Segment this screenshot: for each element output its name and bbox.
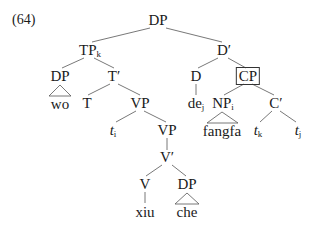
leaf-de-label: de	[188, 95, 202, 111]
trace-k: tk	[254, 123, 263, 142]
node-np-index: i	[231, 102, 234, 112]
node-cp-label: CP	[237, 68, 259, 84]
node-t: T	[82, 96, 91, 111]
node-tp: TPk	[79, 43, 101, 62]
node-cbar: C′	[269, 96, 282, 111]
leaf-xiu: xiu	[135, 205, 154, 220]
trace-i-index: i	[114, 129, 117, 139]
node-vp-upper: VP	[130, 96, 149, 111]
node-dp-left: DP	[50, 69, 69, 84]
node-v: V	[140, 177, 151, 192]
trace-k-index: k	[258, 129, 263, 139]
leaf-de: dej	[188, 96, 205, 115]
node-vbar: V′	[160, 150, 174, 165]
leaf-de-index: j	[202, 102, 205, 112]
trace-j-index: j	[299, 129, 302, 139]
node-d: D	[191, 69, 202, 84]
node-root-dp: DP	[148, 13, 167, 28]
leaf-fangfa: fangfa	[203, 124, 241, 139]
trace-j: tj	[295, 123, 302, 142]
node-tp-label: TP	[79, 42, 97, 58]
leaf-che: che	[177, 205, 198, 220]
node-vp-lower: VP	[157, 123, 176, 138]
node-dp-object: DP	[177, 177, 196, 192]
node-tbar: T′	[108, 69, 120, 84]
node-tp-index: k	[97, 49, 102, 59]
node-np: NPi	[212, 96, 234, 115]
example-number: (64)	[12, 13, 35, 27]
leaf-wo: wo	[51, 97, 69, 112]
tree-branches	[0, 0, 312, 226]
trace-i: ti	[110, 123, 117, 142]
node-dbar: D′	[217, 43, 231, 58]
node-cp-boxed: CP	[237, 69, 259, 84]
node-np-label: NP	[212, 95, 231, 111]
